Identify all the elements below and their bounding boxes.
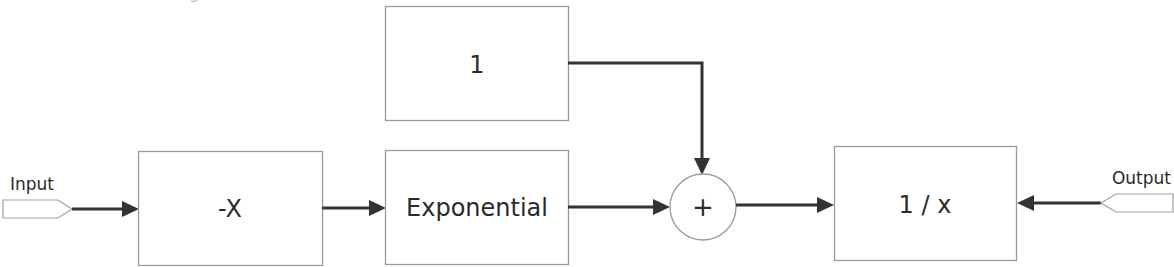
arrowhead-icon (817, 197, 834, 213)
wire-constant-to-sum (568, 63, 710, 175)
input-port[interactable]: Input (3, 174, 72, 218)
arrowhead-icon (369, 200, 386, 216)
plus-icon: + (692, 192, 714, 222)
clipped-caption-fragment: g (189, 0, 200, 2)
block-exponential-label: Exponential (406, 194, 548, 222)
wire-negate-to-exponential (322, 200, 386, 216)
wire-output-to-reciprocal (1017, 195, 1101, 211)
block-exponential[interactable]: Exponential (386, 151, 569, 265)
wire-sum-to-reciprocal (736, 197, 834, 213)
block-constant[interactable]: 1 (386, 7, 569, 121)
input-port-label: Input (10, 174, 54, 194)
sum-junction[interactable]: + (670, 174, 736, 240)
arrowhead-icon (694, 158, 710, 175)
block-reciprocal[interactable]: 1 / x (835, 147, 1017, 261)
block-diagram: g Input -X Exponential 1 + (0, 0, 1174, 267)
output-port-label: Output (1112, 168, 1171, 188)
block-reciprocal-label: 1 / x (899, 191, 952, 219)
block-negate[interactable]: -X (139, 152, 323, 266)
wire-input-to-negate (72, 201, 139, 217)
wire-exponential-to-sum (568, 199, 670, 215)
arrowhead-icon (653, 199, 670, 215)
input-port-shape (3, 200, 72, 218)
block-negate-label: -X (218, 195, 242, 223)
output-port[interactable]: Output (1101, 168, 1173, 212)
arrowhead-icon (1017, 195, 1034, 211)
block-constant-label: 1 (469, 51, 484, 79)
output-port-shape (1101, 194, 1173, 212)
arrowhead-icon (122, 201, 139, 217)
